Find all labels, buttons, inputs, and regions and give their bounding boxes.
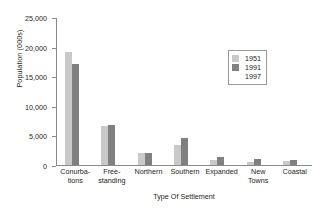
legend-label: 1991 [245, 63, 261, 72]
x-axis-tick-label: Southern [167, 168, 204, 185]
y-axis-tick-label: 5,000 [29, 132, 47, 141]
x-axis-tick-label: Northern [130, 168, 167, 185]
y-axis-tick: 20,000 [52, 48, 56, 49]
bar-group [276, 18, 312, 165]
x-axis-tick-label: NewTowns [240, 168, 277, 185]
legend-swatch [232, 64, 239, 71]
y-axis-tick-label: 0 [43, 162, 47, 171]
legend-item: 1997 [232, 72, 261, 81]
x-axis-tick-label: Free-standing [94, 168, 131, 185]
bar-group [93, 18, 129, 165]
bar [101, 126, 108, 165]
y-axis-title: Population (000s) [15, 4, 24, 114]
bar-chart: Population (000s) 05,00010,00015,00020,0… [0, 0, 328, 212]
x-axis-tick-label: Expanded [203, 168, 240, 185]
y-axis-tick: 0 [52, 166, 56, 167]
legend-label: 1997 [245, 72, 261, 81]
x-axis-title: Type Of Settlement [56, 192, 312, 201]
bar-group [239, 18, 275, 165]
x-axis-tick-label: Conurba-tions [57, 168, 94, 185]
y-axis-tick-label: 15,000 [25, 73, 47, 82]
y-axis-tick-label: 10,000 [25, 102, 47, 111]
legend-item: 1951 [232, 54, 261, 63]
y-axis-tick: 5,000 [52, 136, 56, 137]
bar-group [130, 18, 166, 165]
bar [283, 161, 290, 165]
plot-area: 05,00010,00015,00020,00025,000 [56, 18, 312, 166]
bar-groups [57, 18, 312, 165]
y-axis-tick-label: 20,000 [25, 43, 47, 52]
bar [145, 153, 152, 165]
bar-group [57, 18, 93, 165]
legend: 195119911997 [228, 50, 267, 85]
bar [138, 153, 145, 165]
bar [174, 145, 181, 165]
bar [210, 160, 217, 165]
bar [290, 160, 297, 165]
bar-group [166, 18, 202, 165]
legend-label: 1951 [245, 54, 261, 63]
y-axis-tick: 15,000 [52, 77, 56, 78]
x-axis-line [56, 165, 312, 166]
bar [247, 162, 254, 165]
legend-item: 1991 [232, 63, 261, 72]
x-axis-tick-label: Coastal [276, 168, 313, 185]
bar [217, 157, 224, 165]
legend-swatch [232, 55, 239, 62]
bar-group [203, 18, 239, 165]
y-axis-tick: 10,000 [52, 107, 56, 108]
bar [254, 159, 261, 166]
y-axis-tick-label: 25,000 [25, 14, 47, 23]
legend-swatch [232, 73, 239, 80]
bar [108, 125, 115, 165]
bar [72, 64, 79, 165]
y-axis-tick: 25,000 [52, 18, 56, 19]
bar [65, 52, 72, 165]
bar [181, 138, 188, 165]
x-axis-tick-labels: Conurba-tionsFree-standingNorthernSouthe… [57, 168, 313, 185]
